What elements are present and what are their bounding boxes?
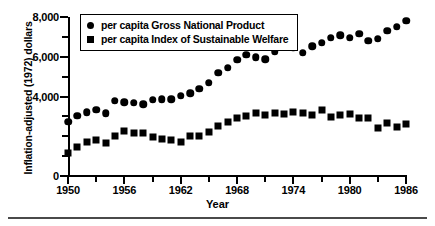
chart-figure: Inflation-adjusted (1972) dollars 04,000… [0,0,435,226]
x-tick-label: 1950 [56,184,80,196]
legend-square-marker-icon [87,36,94,43]
x-tick-minor [95,176,97,182]
data-point [168,137,175,144]
legend-circle-marker-icon [87,22,94,29]
data-point [346,110,353,117]
data-point [393,123,400,130]
data-point [168,96,176,104]
data-point [290,109,297,116]
data-point [261,55,269,63]
x-tick-label: 1968 [225,184,249,196]
data-point [158,135,165,142]
x-tick-label: 1974 [281,184,305,196]
data-point [205,79,213,87]
data-point [327,34,335,42]
data-point [234,114,241,121]
legend-item-isw: per capita Index of Sustainable Welfare [87,32,288,46]
data-point [186,89,194,97]
data-point [64,118,72,126]
data-point [130,99,138,107]
x-tick-major [405,176,407,184]
data-point [337,32,345,40]
data-point [403,121,410,128]
x-tick-major [292,176,294,184]
data-point [65,149,72,156]
data-point [83,108,91,116]
data-point [365,114,372,121]
data-point [243,113,250,120]
y-tick-minor [62,76,68,78]
data-point [74,112,82,120]
x-tick-minor [208,176,210,182]
x-tick-major [349,176,351,184]
x-axis-title: Year [0,198,435,210]
bottom-divider [8,217,427,219]
x-tick-minor [264,176,266,182]
legend-label-isw: per capita Index of Sustainable Welfare [101,33,288,45]
data-point [111,97,119,105]
x-tick-major [67,176,69,184]
data-point [318,39,326,47]
y-tick-minor [62,36,68,38]
data-point [299,49,307,57]
x-tick-major [180,176,182,184]
data-point [252,109,259,116]
data-point [215,122,222,129]
x-tick-label: 1962 [169,184,193,196]
data-point [374,125,381,132]
y-tick-major [60,96,68,98]
data-point [243,51,251,59]
data-point [308,43,316,51]
data-point [383,27,391,35]
data-point [121,99,129,107]
data-point [384,120,391,127]
data-point [74,143,81,150]
data-point [252,53,260,61]
data-point [149,134,156,141]
data-point [196,133,203,140]
data-point [83,139,90,146]
data-point [224,118,231,125]
data-point [92,106,100,114]
data-point [214,69,222,77]
data-point [139,100,147,108]
y-tick-major [60,56,68,58]
data-point [224,64,232,72]
data-point [140,129,147,136]
data-point [402,17,410,25]
data-point [262,112,269,119]
data-point [393,23,401,31]
y-tick-minor [62,135,68,137]
legend-label-gnp: per capita Gross National Product [101,19,264,31]
data-point [130,129,137,136]
data-point [187,132,194,139]
data-point [93,136,100,143]
data-point [337,111,344,118]
data-point [318,107,325,114]
data-point [205,129,212,136]
data-point [280,110,287,117]
data-point [177,138,184,145]
data-point [233,56,241,64]
x-tick-minor [152,176,154,182]
data-point [177,92,185,100]
legend-item-gnp: per capita Gross National Product [87,18,288,32]
data-point [355,30,363,38]
x-tick-label: 1956 [112,184,136,196]
data-point [111,133,118,140]
data-point [196,85,204,93]
y-tick-minor [62,115,68,117]
data-point [309,111,316,118]
x-tick-major [123,176,125,184]
data-point [356,115,363,122]
y-tick-label: 6,000 [32,51,59,63]
data-point [149,96,157,104]
chart-legend: per capita Gross National Product per ca… [80,14,298,51]
data-point [158,95,166,103]
data-point [374,35,382,43]
x-tick-label: 1986 [394,184,418,196]
data-point [121,128,128,135]
data-point [365,37,373,45]
data-point [346,34,354,42]
x-tick-minor [377,176,379,182]
